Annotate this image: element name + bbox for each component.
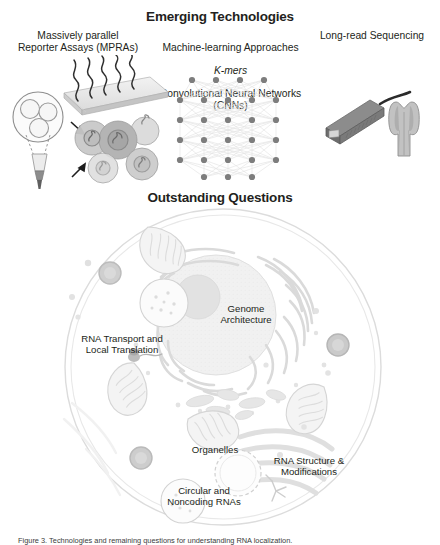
network-node bbox=[201, 157, 207, 163]
lysosome bbox=[99, 262, 121, 284]
network-node bbox=[261, 77, 267, 83]
small-vesicle bbox=[85, 260, 91, 266]
network-node bbox=[201, 117, 207, 123]
network-node bbox=[225, 97, 231, 103]
network-node bbox=[201, 137, 207, 143]
network-node bbox=[225, 174, 231, 180]
small-vesicle bbox=[313, 308, 319, 314]
rna-granule-vesicle bbox=[140, 279, 188, 327]
nanopore-sequencer-icon bbox=[318, 82, 433, 162]
section-heading-outstanding-questions: Outstanding Questions bbox=[0, 190, 440, 205]
minion-device bbox=[326, 100, 384, 144]
section-heading-emerging-technologies: Emerging Technologies bbox=[0, 9, 440, 24]
transfected-cells-icon bbox=[70, 112, 165, 184]
network-node bbox=[177, 137, 183, 143]
network-node bbox=[237, 77, 243, 83]
question-label-rna-transport: RNA Transport and Local Translation bbox=[60, 333, 184, 355]
neural-network-icon bbox=[168, 74, 288, 182]
small-vesicle bbox=[75, 314, 80, 319]
network-node bbox=[213, 77, 219, 83]
network-node bbox=[189, 77, 195, 83]
network-node bbox=[273, 137, 279, 143]
network-node bbox=[201, 174, 207, 180]
network-node bbox=[249, 117, 255, 123]
network-node bbox=[249, 97, 255, 103]
small-vesicle bbox=[69, 294, 75, 300]
network-node bbox=[249, 174, 255, 180]
network-node bbox=[273, 117, 279, 123]
technology-label-mpra: Massively parallel Reporter Assays (MPRA… bbox=[8, 30, 148, 53]
lysosome bbox=[327, 334, 349, 356]
network-node bbox=[249, 137, 255, 143]
network-node bbox=[225, 157, 231, 163]
network-node bbox=[249, 157, 255, 163]
ml-label-line1: Machine-learning Approaches bbox=[162, 42, 298, 53]
technology-label-long-read-sequencing: Long-read Sequencing bbox=[308, 30, 436, 42]
figure-root: Emerging Technologies Massively parallel… bbox=[0, 0, 440, 545]
network-node bbox=[273, 97, 279, 103]
nanopore-protein-icon bbox=[389, 102, 419, 156]
small-vesicle bbox=[325, 370, 331, 376]
network-node bbox=[177, 97, 183, 103]
small-vesicle bbox=[263, 362, 268, 367]
question-label-circular-noncoding-rna: Circular and Noncoding RNAs bbox=[148, 485, 260, 507]
plasmid-magnifier bbox=[13, 92, 63, 156]
figure-caption: Figure 3. Technologies and remaining que… bbox=[18, 536, 422, 545]
plate-slab bbox=[64, 77, 168, 115]
network-node bbox=[225, 117, 231, 123]
network-node bbox=[225, 137, 231, 143]
network-node bbox=[177, 117, 183, 123]
network-node bbox=[273, 157, 279, 163]
question-label-rna-structure: RNA Structure & Modifications bbox=[255, 455, 363, 477]
network-node bbox=[201, 97, 207, 103]
question-label-genome-architecture: Genome Architecture bbox=[200, 303, 292, 325]
small-vesicle bbox=[301, 424, 307, 430]
pipette-tip-icon bbox=[32, 154, 47, 189]
network-node bbox=[177, 157, 183, 163]
question-label-organelles: Organelles bbox=[176, 444, 254, 455]
lysosome bbox=[130, 447, 152, 469]
